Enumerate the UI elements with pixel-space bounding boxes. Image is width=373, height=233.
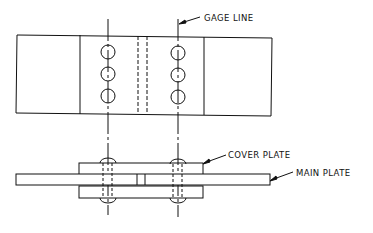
- cover-plate-arrowhead: [203, 159, 210, 164]
- main-plate-arrowhead: [270, 176, 277, 181]
- cover-plate-bottom: [79, 186, 203, 198]
- gage-line-label: GAGE LINE: [204, 13, 253, 23]
- gage-line-arrowhead: [179, 20, 186, 24]
- section-view: [16, 158, 270, 203]
- cover-plate-label: COVER PLATE: [228, 150, 290, 160]
- main-plate: [16, 174, 270, 185]
- plan-view: [16, 19, 272, 217]
- riveted-joint-diagram: GAGE LINE COVER PLATE MAIN PLATE: [0, 0, 373, 233]
- cover-plate-top: [79, 163, 203, 175]
- main-plate-label: MAIN PLATE: [296, 168, 351, 178]
- plan-outline: [16, 35, 272, 116]
